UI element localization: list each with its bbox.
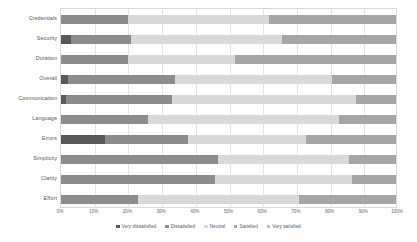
bar-segment[interactable] <box>352 175 396 184</box>
bar-segment[interactable] <box>61 15 128 24</box>
bar-segment[interactable] <box>306 135 396 144</box>
chart-legend: Very dissatisfiedDissatisfiedNeutralSati… <box>0 224 417 229</box>
axis-tick-label: 60% <box>258 209 267 214</box>
legend-item[interactable]: Very dissatisfied <box>116 224 156 229</box>
bar-segment[interactable] <box>66 95 172 104</box>
legend-swatch-icon <box>267 225 270 228</box>
legend-item[interactable]: Neutral <box>204 224 225 229</box>
bar-segment[interactable] <box>188 135 305 144</box>
axis-tick-label: 40% <box>190 209 199 214</box>
bar-row[interactable] <box>61 195 396 204</box>
legend-label: Satisfied <box>239 224 257 229</box>
category-label: Language <box>0 115 57 121</box>
axis-tick-label: 90% <box>359 209 368 214</box>
stacked-bar[interactable] <box>61 55 396 64</box>
axis-tick-label: 100% <box>391 209 403 214</box>
bar-segment[interactable] <box>332 75 396 84</box>
bar-segment[interactable] <box>61 195 138 204</box>
bar-segment[interactable] <box>131 35 282 44</box>
bar-row[interactable] <box>61 115 396 124</box>
bar-segment[interactable] <box>269 15 396 24</box>
stacked-bar[interactable] <box>61 15 396 24</box>
stacked-bar[interactable] <box>61 35 396 44</box>
axis-tick-label: 0% <box>57 209 64 214</box>
bar-segment[interactable] <box>235 55 396 64</box>
bar-segment[interactable] <box>339 115 396 124</box>
stacked-bar[interactable] <box>61 175 396 184</box>
legend-item[interactable]: Dissatisfied <box>165 224 195 229</box>
bar-segment[interactable] <box>215 175 352 184</box>
bar-segment[interactable] <box>128 55 235 64</box>
bar-row[interactable] <box>61 55 396 64</box>
legend-label: Very satisfied <box>272 224 301 229</box>
bar-row[interactable] <box>61 35 396 44</box>
bar-segment[interactable] <box>282 35 396 44</box>
legend-label: Neutral <box>210 224 225 229</box>
stacked-bar[interactable] <box>61 155 396 164</box>
category-label: Clarity <box>0 175 57 181</box>
bar-segment[interactable] <box>61 115 148 124</box>
axis-tick-label: 80% <box>325 209 334 214</box>
category-label: Effort <box>0 195 57 201</box>
bar-row[interactable] <box>61 95 396 104</box>
legend-swatch-icon <box>165 225 168 228</box>
stacked-bar[interactable] <box>61 135 396 144</box>
bar-segment[interactable] <box>175 75 332 84</box>
axis-tick-label: 20% <box>123 209 132 214</box>
category-label: Credentials <box>0 15 57 21</box>
axis-tick-label: 10% <box>89 209 98 214</box>
bar-segment[interactable] <box>349 155 396 164</box>
category-label: Security <box>0 35 57 41</box>
legend-label: Dissatisfied <box>171 224 196 229</box>
legend-label: Very dissatisfied <box>122 224 157 229</box>
bar-segment[interactable] <box>218 155 349 164</box>
bar-segment[interactable] <box>148 115 339 124</box>
axis-tick-label: 30% <box>156 209 165 214</box>
value-axis-tick-labels: 0%10%20%30%40%50%60%70%80%90%100% <box>60 209 397 219</box>
stacked-bar[interactable] <box>61 115 396 124</box>
axis-tick-label: 70% <box>291 209 300 214</box>
category-label: Overall <box>0 75 57 81</box>
category-label: Communication <box>0 95 57 101</box>
bar-row[interactable] <box>61 15 396 24</box>
bar-segment[interactable] <box>356 95 396 104</box>
category-label: Simplicity <box>0 155 57 161</box>
category-label: Errors <box>0 135 57 141</box>
axis-tick-label: 50% <box>224 209 233 214</box>
stacked-bar[interactable] <box>61 75 396 84</box>
bar-row[interactable] <box>61 175 396 184</box>
category-axis-labels: CredentialsSecurityDurationOverallCommun… <box>0 8 57 208</box>
bar-segment[interactable] <box>61 55 128 64</box>
bar-segment[interactable] <box>61 35 71 44</box>
bar-segment[interactable] <box>71 35 131 44</box>
legend-item[interactable]: Very satisfied <box>267 224 301 229</box>
stacked-bar[interactable] <box>61 195 396 204</box>
bar-segment[interactable] <box>105 135 189 144</box>
bar-row[interactable] <box>61 135 396 144</box>
bar-segment[interactable] <box>128 15 269 24</box>
bar-segment[interactable] <box>61 75 68 84</box>
legend-swatch-icon <box>234 225 237 228</box>
bar-segment[interactable] <box>138 195 299 204</box>
bar-segment[interactable] <box>172 95 356 104</box>
bar-rows <box>61 9 396 207</box>
bar-segment[interactable] <box>68 75 175 84</box>
stacked-bar-chart: CredentialsSecurityDurationOverallCommun… <box>0 0 417 242</box>
legend-swatch-icon <box>116 225 119 228</box>
stacked-bar[interactable] <box>61 95 396 104</box>
bar-segment[interactable] <box>299 195 396 204</box>
legend-swatch-icon <box>204 225 207 228</box>
bar-row[interactable] <box>61 75 396 84</box>
category-label: Duration <box>0 55 57 61</box>
plot-area <box>60 8 397 208</box>
bar-row[interactable] <box>61 155 396 164</box>
bar-segment[interactable] <box>61 175 215 184</box>
bar-segment[interactable] <box>61 135 105 144</box>
bar-segment[interactable] <box>61 155 218 164</box>
legend-item[interactable]: Satisfied <box>234 224 258 229</box>
